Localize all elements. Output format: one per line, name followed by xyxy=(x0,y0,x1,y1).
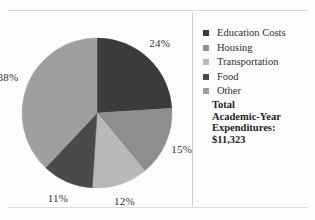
pie-chart-figure: 24%15%12%11%38% Education CostsHousingTr… xyxy=(0,0,315,220)
legend-item-label: Food xyxy=(217,70,239,83)
legend-item[interactable]: Education Costs xyxy=(203,26,311,39)
summary-line-1: Total xyxy=(212,99,312,111)
legend-item[interactable]: Food xyxy=(203,70,311,83)
legend-item[interactable]: Housing xyxy=(203,41,311,54)
pie-slices xyxy=(22,38,172,188)
summary-line-3: Expenditures: xyxy=(212,122,312,134)
pie-slice-value-label: 11% xyxy=(48,192,68,204)
summary-line-2: Academic-Year xyxy=(212,111,312,123)
legend-swatch-icon xyxy=(203,88,209,94)
legend-item-label: Other xyxy=(217,84,241,97)
panel-divider xyxy=(192,12,193,206)
legend-item[interactable]: Other xyxy=(203,84,311,97)
pie-panel: 24%15%12%11%38% xyxy=(0,12,192,207)
legend-swatch-icon xyxy=(203,30,209,36)
pie-slice-value-label: 38% xyxy=(0,71,18,83)
legend-swatch-icon xyxy=(203,59,209,65)
summary-line-4: $11,323 xyxy=(212,134,312,146)
summary-block: Total Academic-Year Expenditures: $11,32… xyxy=(212,99,312,145)
legend-swatch-icon xyxy=(203,45,209,51)
pie-slice-value-label: 15% xyxy=(171,143,192,155)
pie-slice-value-label: 24% xyxy=(149,37,170,49)
bottom-rule xyxy=(8,207,308,208)
pie-slice-value-label: 12% xyxy=(114,195,135,207)
legend-item-label: Education Costs xyxy=(217,26,286,39)
legend-item[interactable]: Transportation xyxy=(203,55,311,68)
legend-swatch-icon xyxy=(203,74,209,80)
legend: Education CostsHousingTransportationFood… xyxy=(203,26,311,99)
legend-item-label: Transportation xyxy=(217,55,278,68)
legend-item-label: Housing xyxy=(217,41,253,54)
top-rule xyxy=(8,10,308,11)
